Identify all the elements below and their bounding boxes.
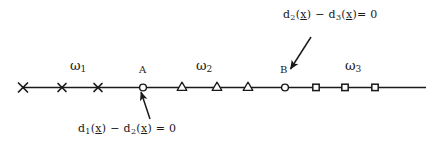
formula-equals: = 0 — [156, 122, 177, 135]
formula-minus: − — [315, 8, 325, 21]
formula-d-symbol: d — [329, 8, 336, 21]
formula-d-symbol: d — [124, 122, 131, 135]
class-label-omega-2: ω2 — [196, 58, 212, 74]
omega-symbol: ω — [345, 58, 356, 73]
class-label-omega-1: ω1 — [70, 58, 86, 74]
formula-paren-close: ) — [147, 122, 152, 135]
square-marker — [342, 84, 348, 90]
omega-subscript: 2 — [207, 64, 213, 74]
square-marker — [313, 84, 319, 90]
omega-symbol: ω — [196, 58, 207, 73]
omega-subscript: 1 — [81, 64, 87, 74]
triangle-marker — [243, 82, 253, 90]
marker-group-omega-2 — [177, 82, 253, 90]
figure-canvas — [0, 0, 446, 151]
formula-paren-close: ) — [102, 122, 107, 135]
triangle-marker — [177, 82, 187, 90]
square-marker — [372, 84, 378, 90]
omega-subscript: 3 — [356, 64, 362, 74]
annotation-label-top: d2(x) − d3(x)= 0 — [283, 8, 378, 22]
decision-boundary-figure: d2(x) − d3(x)= 0 d1(x) − d2(x) = 0 ω1 ω2… — [0, 0, 446, 151]
annotation-label-bottom: d1(x) − d2(x) = 0 — [78, 122, 176, 136]
class-label-omega-3: ω3 — [345, 58, 361, 74]
annotation-arrow-top — [291, 37, 312, 69]
formula-minus: − — [110, 122, 120, 135]
formula-equals: = 0 — [357, 8, 378, 21]
triangle-marker — [212, 82, 222, 90]
boundary-point-label-a: A — [139, 64, 146, 75]
formula-paren-close: ) — [307, 8, 312, 21]
annotation-arrow-bottom — [141, 92, 150, 119]
boundary-marker-b — [282, 84, 289, 91]
boundary-point-label-b: B — [280, 64, 287, 75]
omega-symbol: ω — [70, 58, 81, 73]
boundary-marker-a — [140, 84, 147, 91]
